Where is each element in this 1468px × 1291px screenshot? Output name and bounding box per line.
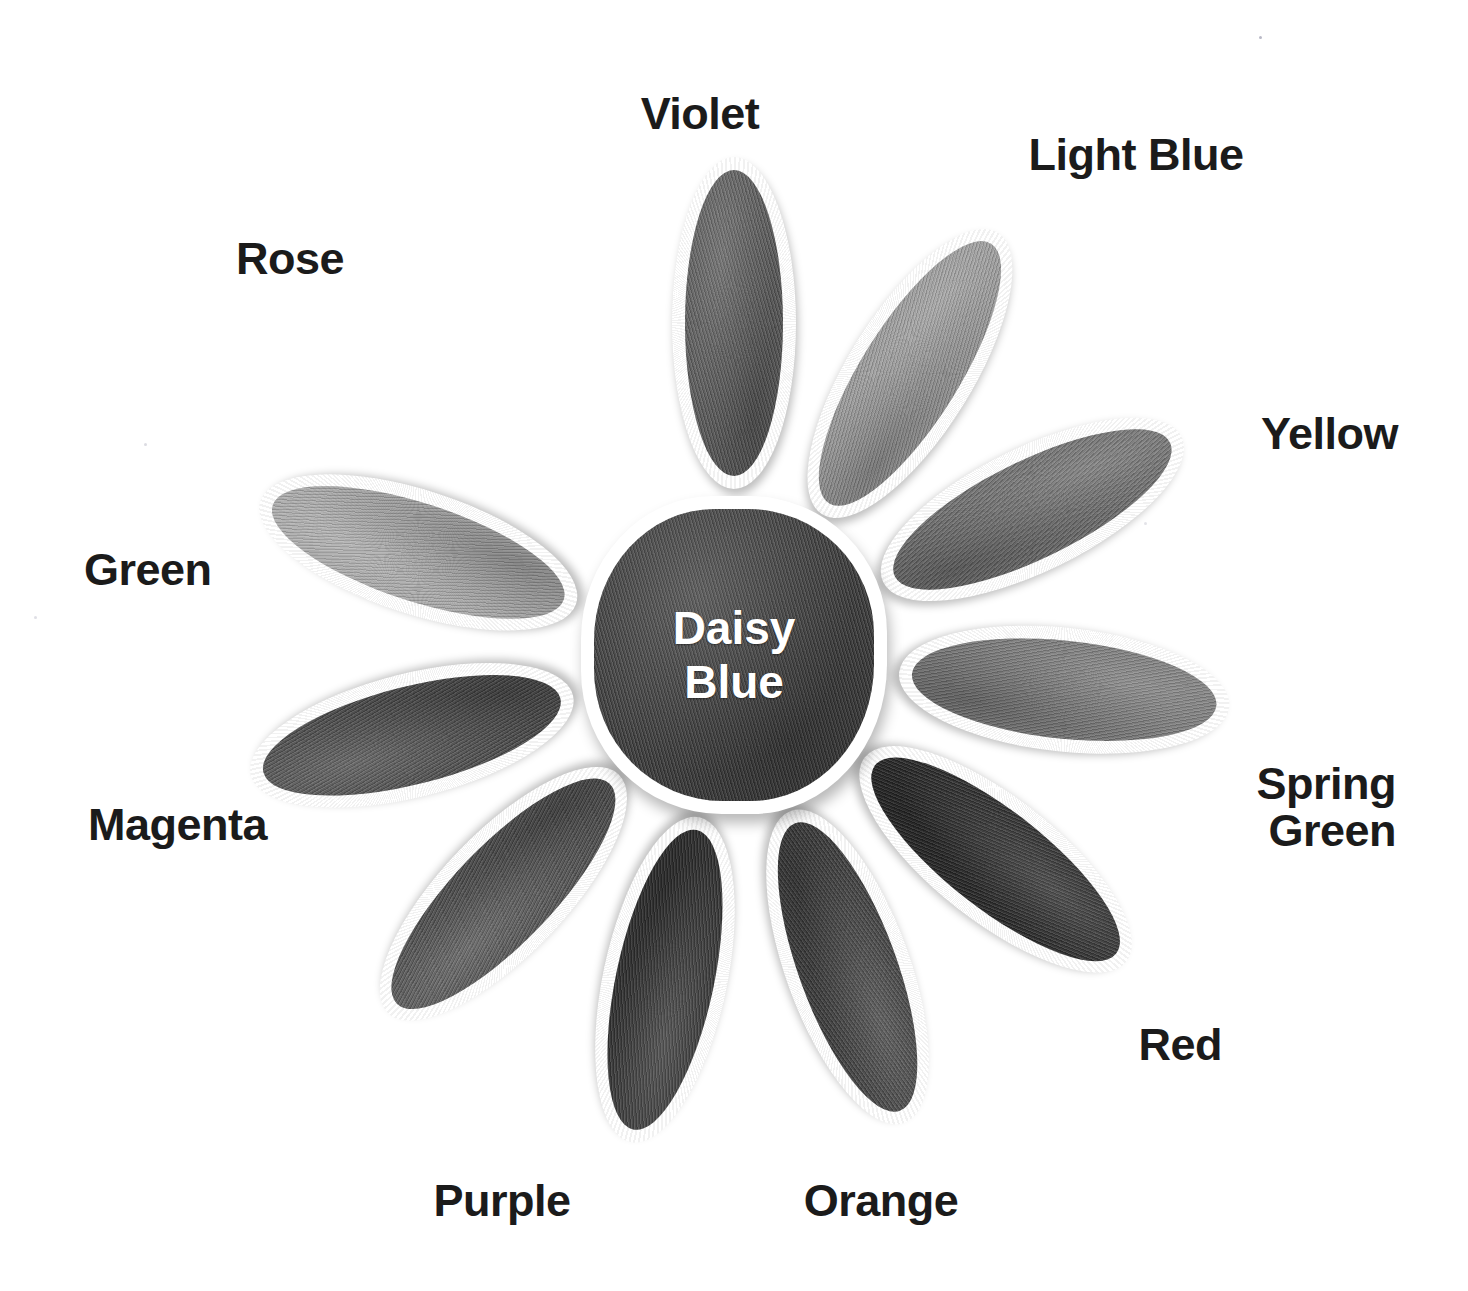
scan-speck [1259,36,1262,39]
scan-speck [144,443,147,446]
label-green: Green [84,546,212,593]
label-rose: Rose [236,235,344,282]
label-magenta: Magenta [88,801,267,848]
petal-fill-purple [585,820,744,1140]
scan-speck [1144,522,1147,525]
label-red: Red [1138,1021,1222,1068]
label-violet: Violet [641,90,760,137]
petal-spring-green[interactable] [893,611,1236,769]
petal-violet[interactable] [672,157,796,489]
label-purple: Purple [433,1177,570,1224]
color-wheel-figure: Daisy Blue VioletLight BlueYellowSpring … [0,0,1468,1291]
scan-speck [34,616,37,619]
petal-fill-rose [258,459,579,647]
daisy-center-label: Daisy Blue [673,601,796,710]
label-orange: Orange [804,1177,959,1224]
petal-fill-spring-green [907,625,1222,754]
label-yellow: Yellow [1261,410,1398,457]
label-spring-green: Spring Green [1257,760,1397,855]
label-light-blue: Light Blue [1029,131,1244,178]
petal-fill-violet [685,170,783,476]
petal-rose[interactable] [241,442,595,663]
